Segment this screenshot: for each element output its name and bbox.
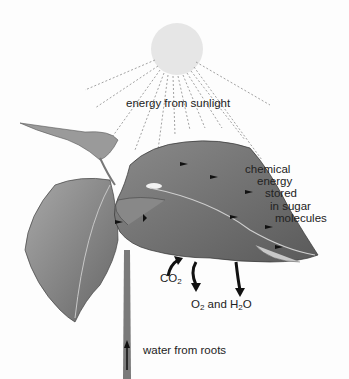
- o2-text: O: [191, 298, 200, 310]
- co2-text: CO: [160, 272, 177, 284]
- and-h-text: and H: [204, 298, 238, 310]
- top-leaf: [20, 123, 118, 160]
- label-o2-h2o: O2 and H2O: [191, 298, 252, 311]
- label-water-from-roots: water from roots: [143, 344, 226, 357]
- h2o-tail-text: O: [243, 298, 252, 310]
- photosynthesis-diagram: energy from sunlight chemical energy sto…: [0, 0, 349, 379]
- left-leaf: [25, 178, 118, 322]
- label-co2: CO2: [160, 272, 182, 285]
- label-line: stored: [265, 187, 297, 200]
- co2-subscript: 2: [177, 277, 181, 286]
- sun-icon: [151, 23, 203, 75]
- label-energy-from-sunlight: energy from sunlight: [126, 97, 230, 110]
- label-line: molecules: [275, 212, 327, 225]
